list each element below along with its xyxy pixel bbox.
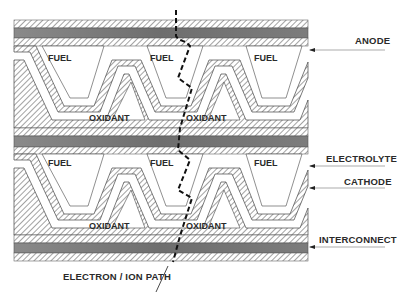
fuel-label: FUEL — [254, 53, 278, 63]
corrugated-layer-1: FUEL FUEL FUEL OXIDANT OXIDANT — [14, 46, 308, 128]
svg-text:INTERCONNECT: INTERCONNECT — [319, 234, 397, 245]
bottom-plate — [14, 235, 308, 261]
callout-cathode: CATHODE — [309, 176, 392, 190]
svg-text:ELECTROLYTE: ELECTROLYTE — [326, 153, 397, 164]
oxidant-label: OXIDANT — [89, 221, 130, 231]
fuel-label: FUEL — [150, 158, 174, 168]
corrugated-layer-2: FUEL FUEL FUEL OXIDANT OXIDANT — [14, 154, 308, 235]
fuel-cell-diagram: FUEL FUEL FUEL OXIDANT OXIDANT FUEL FUEL… — [0, 0, 398, 304]
fuel-label: FUEL — [150, 53, 174, 63]
fuel-label: FUEL — [254, 158, 278, 168]
oxidant-label: OXIDANT — [186, 113, 227, 123]
fuel-label: FUEL — [48, 158, 72, 168]
callout-anode: ANODE — [309, 35, 390, 52]
fuel-label: FUEL — [48, 53, 72, 63]
svg-text:ELECTRON / ION PATH: ELECTRON / ION PATH — [63, 271, 171, 282]
callout-electron-ion-path: ELECTRON / ION PATH — [63, 266, 171, 292]
svg-text:ANODE: ANODE — [355, 35, 390, 46]
top-plate — [14, 20, 308, 46]
svg-text:CATHODE: CATHODE — [344, 176, 392, 187]
callout-interconnect: INTERCONNECT — [309, 234, 397, 249]
oxidant-label: OXIDANT — [186, 221, 227, 231]
callout-electrolyte: ELECTROLYTE — [309, 153, 397, 168]
middle-plate — [14, 128, 308, 154]
oxidant-label: OXIDANT — [89, 113, 130, 123]
